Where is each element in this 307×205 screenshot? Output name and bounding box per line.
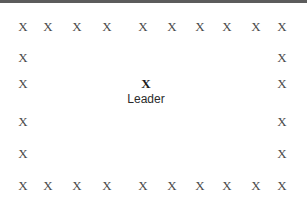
bottom-row-mark-1: X: [16, 179, 30, 193]
top-row-mark-9: X: [249, 20, 263, 34]
top-row-mark-6: X: [165, 20, 179, 34]
bottom-row-mark-2: X: [41, 179, 55, 193]
top-row-mark-7: X: [193, 20, 207, 34]
bottom-row-mark-10: X: [275, 179, 289, 193]
right-column-mark-4: X: [275, 115, 289, 129]
bottom-row-mark-6: X: [165, 179, 179, 193]
bottom-row-mark-5: X: [136, 179, 150, 193]
horizontal-divider: [0, 0, 307, 3]
left-column-mark-4: X: [16, 115, 30, 129]
bottom-row-mark-7: X: [193, 179, 207, 193]
bottom-row-mark-3: X: [70, 179, 84, 193]
top-row-mark-3: X: [70, 20, 84, 34]
top-row-mark-1: X: [16, 20, 30, 34]
left-column-mark-2: X: [16, 51, 30, 65]
leader-label: Leader: [101, 92, 191, 107]
top-row-mark-5: X: [136, 20, 150, 34]
right-column-mark-2: X: [275, 51, 289, 65]
left-column-mark-5: X: [16, 147, 30, 161]
top-row-mark-10: X: [275, 20, 289, 34]
bottom-row-mark-8: X: [220, 179, 234, 193]
top-row-mark-8: X: [220, 20, 234, 34]
bottom-row-mark-4: X: [100, 179, 114, 193]
top-row-mark-4: X: [100, 20, 114, 34]
leader-x-icon: X: [101, 77, 191, 91]
bottom-row-mark-9: X: [249, 179, 263, 193]
right-column-mark-5: X: [275, 147, 289, 161]
left-column-mark-3: X: [16, 77, 30, 91]
leader-group: X Leader: [101, 77, 191, 107]
diagram-canvas: XXXXXXXXXXXXXXXXXXXXXXXXXXXX X Leader: [0, 0, 307, 205]
right-column-mark-3: X: [275, 77, 289, 91]
top-row-mark-2: X: [41, 20, 55, 34]
